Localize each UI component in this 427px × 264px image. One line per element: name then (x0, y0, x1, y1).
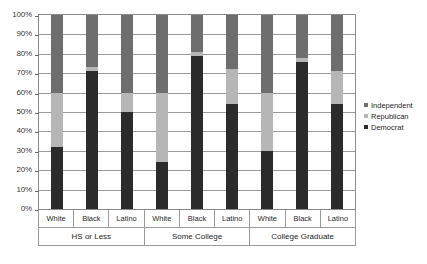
y-axis-tick-label: 40% (17, 126, 32, 135)
y-axis-tick-label: 70% (17, 68, 32, 77)
y-axis-tick-label: 20% (17, 165, 32, 174)
category-label-black: Black (74, 210, 109, 227)
bar-segment-democrat (121, 112, 133, 209)
stacked-bar[interactable] (51, 15, 63, 209)
category-label-latino: Latino (109, 210, 144, 227)
bar-segment-republican (156, 93, 168, 163)
stacked-bar[interactable] (121, 15, 133, 209)
y-axis-tick-label: 100% (12, 10, 32, 19)
legend-swatch-icon (364, 125, 368, 129)
y-axis-tick-label: 50% (17, 107, 32, 116)
bar-segment-democrat (261, 151, 273, 209)
category-label-black: Black (180, 210, 215, 227)
stacked-bar[interactable] (296, 15, 308, 209)
bar-segment-independent (261, 15, 273, 93)
legend-label: Democrat (371, 123, 404, 132)
bar-segment-republican (51, 93, 63, 147)
y-axis-tick-label: 10% (17, 184, 32, 193)
group-label: College Graduate (250, 228, 356, 245)
bar-segment-independent (86, 15, 98, 67)
stacked-bar[interactable] (156, 15, 168, 209)
bar-segment-republican (331, 71, 343, 104)
legend-item[interactable]: Independent (364, 100, 426, 110)
y-axis-tick-label: 90% (17, 29, 32, 38)
bar-segment-democrat (156, 162, 168, 209)
bar-segment-republican (226, 69, 238, 104)
bar-group (144, 15, 249, 209)
group-axis-row: HS or LessSome CollegeCollege Graduate (38, 228, 356, 246)
bar-segment-independent (156, 15, 168, 93)
category-label-latino: Latino (321, 210, 356, 227)
legend-label: Independent (371, 101, 413, 110)
bar-group (250, 15, 355, 209)
y-axis-tick-label: 60% (17, 87, 32, 96)
group-label: HS or Less (39, 228, 145, 245)
category-label-white: White (39, 210, 74, 227)
stacked-bar[interactable] (226, 15, 238, 209)
bar-segment-independent (51, 15, 63, 93)
bar-group (39, 15, 144, 209)
bar-segment-republican (121, 93, 133, 112)
bar-segment-independent (121, 15, 133, 93)
category-label-white: White (250, 210, 285, 227)
stacked-bar[interactable] (191, 15, 203, 209)
bar-segment-independent (331, 15, 343, 71)
legend-swatch-icon (364, 114, 368, 118)
bar-segment-democrat (191, 56, 203, 209)
bar-segment-democrat (331, 104, 343, 209)
y-axis-tick-label: 30% (17, 145, 32, 154)
group-label: Some College (145, 228, 251, 245)
plot-area (39, 15, 355, 209)
stacked-bar-chart: 0%10%20%30%40%50%60%70%80%90%100% WhiteB… (0, 0, 427, 264)
bar-segment-independent (296, 15, 308, 58)
legend-item[interactable]: Republican (364, 111, 426, 121)
legend-label: Republican (371, 112, 409, 121)
y-axis-tick-label: 0% (21, 204, 32, 213)
bar-segment-democrat (296, 62, 308, 209)
bar-segment-democrat (86, 71, 98, 209)
y-axis: 0%10%20%30%40%50%60%70%80%90%100% (0, 14, 36, 210)
stacked-bar[interactable] (86, 15, 98, 209)
y-axis-tick-label: 80% (17, 48, 32, 57)
legend-item[interactable]: Democrat (364, 122, 426, 132)
legend-swatch-icon (364, 103, 368, 107)
stacked-bar[interactable] (331, 15, 343, 209)
bar-segment-democrat (51, 147, 63, 209)
bar-segment-democrat (226, 104, 238, 209)
bar-segment-independent (191, 15, 203, 52)
category-label-latino: Latino (215, 210, 250, 227)
category-label-white: White (145, 210, 180, 227)
bar-segment-independent (226, 15, 238, 69)
bar-segment-republican (261, 93, 273, 151)
legend: IndependentRepublicanDemocrat (364, 100, 426, 133)
category-axis-row: WhiteBlackLatinoWhiteBlackLatinoWhiteBla… (38, 210, 356, 228)
stacked-bar[interactable] (261, 15, 273, 209)
category-label-black: Black (286, 210, 321, 227)
